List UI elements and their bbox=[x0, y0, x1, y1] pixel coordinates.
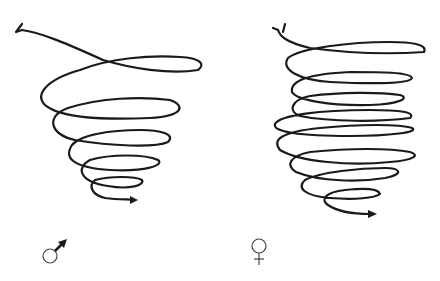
arrow-head-icon bbox=[368, 210, 377, 218]
female-symbol-icon bbox=[252, 239, 266, 265]
spiral-flight-diagram bbox=[0, 0, 440, 281]
male-symbol-icon bbox=[43, 239, 67, 263]
female-flight-path bbox=[273, 24, 425, 218]
arrow-head-icon bbox=[130, 196, 138, 204]
male-flight-path bbox=[16, 24, 201, 204]
female-symbol-label: ♀ bbox=[0, 0, 1, 1]
